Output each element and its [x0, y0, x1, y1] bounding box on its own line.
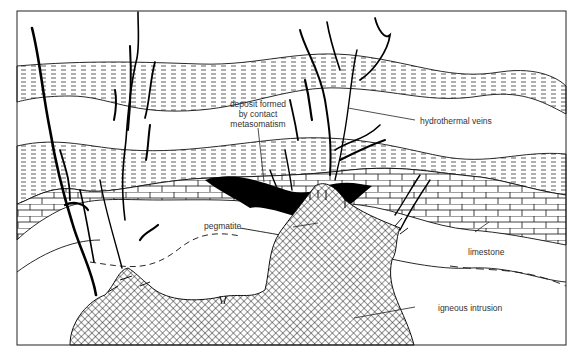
- geology-cross-section: deposit formed by contact metasomatism h…: [0, 0, 575, 357]
- label-igneous-intrusion: igneous intrusion: [438, 303, 503, 313]
- label-hydrothermal-veins: hydrothermal veins: [420, 116, 492, 126]
- label-deposit: metasomatism: [230, 119, 285, 129]
- label-deposit: by contact: [239, 109, 278, 119]
- label-deposit: deposit formed: [230, 99, 286, 109]
- label-limestone: limestone: [468, 247, 505, 257]
- label-pegmatite: pegmatite: [204, 221, 242, 231]
